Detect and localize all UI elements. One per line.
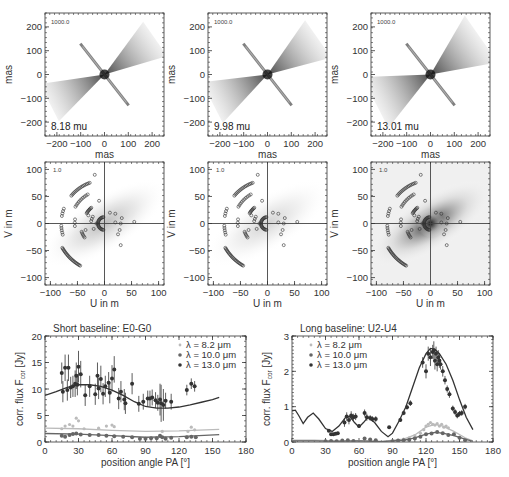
x-tick-label: −200	[372, 138, 393, 149]
data-point	[138, 437, 142, 441]
data-point	[345, 415, 349, 419]
chart-title: Long baseline: U2-U4	[300, 323, 397, 334]
data-point	[137, 402, 141, 406]
x-tick-label: 50	[126, 287, 137, 298]
data-point	[97, 386, 101, 390]
uv-coverage-panel: 1.0−100−50050100100500−50−100U in mV in …	[329, 162, 505, 309]
data-point	[150, 395, 154, 399]
model-image-panel: 1000.09.98 mu−200−10001002002001000−100−…	[166, 13, 331, 160]
y-tick-label: −50	[26, 245, 42, 256]
data-point	[402, 411, 406, 415]
x-tick-label: 90	[387, 445, 398, 456]
data-point	[149, 436, 153, 440]
data-point	[169, 436, 173, 440]
model-images-row: 1000.08.18 mu−200−10001002002001000−100−…	[3, 13, 498, 160]
x-axis-label: mas	[95, 149, 114, 160]
data-point	[77, 365, 81, 369]
x-tick-label: 100	[314, 287, 330, 298]
y-tick-label: −100	[184, 93, 205, 104]
data-point	[396, 439, 400, 443]
y-tick-label: 100	[189, 164, 205, 175]
y-tick-label: 0	[37, 437, 42, 448]
data-point	[60, 371, 64, 375]
data-point	[387, 425, 391, 429]
data-point	[194, 435, 198, 439]
data-point	[193, 384, 197, 388]
data-point	[432, 348, 436, 352]
x-tick-label: 0	[428, 287, 433, 298]
data-point	[363, 411, 367, 415]
x-tick-label: −100	[40, 287, 61, 298]
data-point	[117, 397, 121, 401]
data-point	[440, 423, 443, 426]
data-point	[82, 427, 85, 430]
data-point	[79, 433, 83, 437]
x-tick-label: 100	[151, 287, 167, 298]
y-tick-label: 10	[31, 384, 42, 395]
data-point	[430, 432, 434, 436]
short-baseline-chart: 030609012015018005101520position angle P…	[14, 323, 254, 468]
y-tick-label: −100	[21, 93, 42, 104]
y-tick-label: 100	[352, 164, 368, 175]
y-tick-label: 100	[26, 164, 42, 175]
x-tick-label: 100	[120, 138, 136, 149]
data-point	[97, 427, 100, 430]
data-point	[445, 387, 449, 391]
data-point	[189, 382, 193, 386]
y-tick-label: 50	[194, 191, 205, 202]
data-point	[185, 435, 189, 439]
data-point	[426, 352, 430, 356]
x-tick-label: 150	[452, 445, 468, 456]
data-point	[65, 388, 69, 392]
x-tick-label: 60	[354, 445, 365, 456]
y-axis-label: corr. flux Fcor [Jy]	[261, 352, 273, 426]
x-tick-label: −100	[233, 138, 254, 149]
y-tick-label: −100	[347, 272, 368, 283]
data-point	[327, 429, 331, 433]
x-tick-label: 90	[140, 445, 151, 456]
y-tick-label: 0	[200, 218, 205, 229]
x-axis-label: U in m	[253, 298, 282, 309]
data-point	[441, 431, 445, 435]
data-point	[347, 418, 351, 422]
x-tick-label: −100	[396, 138, 417, 149]
x-tick-label: 180	[238, 445, 254, 456]
legend: λ = 8.2 μmλ = 10.0 μmλ = 13.0 μm	[309, 339, 367, 370]
data-point	[164, 437, 168, 441]
y-tick-label: 2	[284, 366, 289, 377]
x-tick-label: −100	[70, 138, 91, 149]
data-point	[144, 437, 148, 441]
wavelength-label: 13.01 mu	[377, 121, 419, 132]
x-axis-label: position angle PA [°]	[101, 457, 190, 468]
data-point	[161, 430, 164, 433]
y-tick-label: 50	[357, 191, 368, 202]
y-tick-label: 0	[37, 218, 42, 229]
y-tick-label: 15	[31, 357, 42, 368]
data-point	[324, 439, 328, 443]
data-point	[119, 390, 123, 394]
x-axis-label: U in m	[416, 298, 445, 309]
data-point	[164, 399, 168, 403]
uv-coverage-panel: 1.0−100−50050100100500−50−100U in mV in …	[166, 162, 342, 309]
y-tick-label: −50	[189, 245, 205, 256]
y-axis-label: V in m	[329, 209, 340, 237]
data-point	[428, 355, 432, 359]
data-point	[101, 392, 105, 396]
x-tick-label: 30	[73, 445, 84, 456]
data-point	[75, 383, 79, 387]
data-point	[365, 415, 369, 419]
data-point	[103, 384, 107, 388]
x-tick-label: 60	[107, 445, 118, 456]
y-tick-label: −100	[347, 93, 368, 104]
data-point	[434, 352, 438, 356]
data-point	[374, 438, 378, 442]
x-tick-label: −50	[69, 287, 85, 298]
x-tick-label: 100	[283, 138, 299, 149]
data-point	[346, 438, 350, 442]
data-point	[155, 436, 159, 440]
data-point	[419, 432, 422, 435]
x-tick-label: 200	[307, 138, 323, 149]
y-tick-label: 200	[26, 21, 42, 32]
x-tick-label: 200	[144, 138, 160, 149]
data-point	[88, 433, 92, 437]
